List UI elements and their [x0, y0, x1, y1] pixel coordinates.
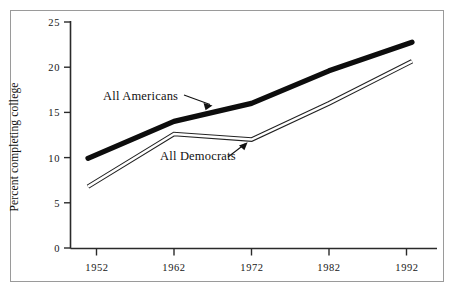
x-tick-label-1952: 1952 [85, 262, 108, 273]
series-annotation-all-americans: All Americans [103, 89, 178, 104]
series-annotation-all-democrats: All Democrats [160, 149, 236, 164]
y-tick-label-20: 20 [42, 62, 60, 73]
line-chart-plot [0, 0, 456, 294]
y-axis-ticks [64, 22, 71, 248]
x-tick-label-1962: 1962 [162, 262, 185, 273]
x-tick-label-1972: 1972 [240, 262, 263, 273]
series-line-all-democrats-inner [88, 61, 412, 186]
figure-container: Percent completing college 25 20 15 10 5… [0, 0, 456, 294]
y-tick-label-25: 25 [42, 17, 60, 28]
y-axis-label: Percent completing college [8, 82, 20, 211]
x-tick-label-1982: 1982 [317, 262, 340, 273]
annotation-arrow-all-americans [184, 95, 213, 110]
series-line-all-democrats-outer [88, 61, 412, 186]
y-tick-label-0: 0 [42, 243, 60, 254]
y-tick-label-5: 5 [42, 198, 60, 209]
x-axis-ticks [97, 249, 407, 256]
y-tick-label-15: 15 [42, 107, 60, 118]
x-tick-label-1992: 1992 [395, 262, 418, 273]
y-tick-label-10: 10 [42, 153, 60, 164]
